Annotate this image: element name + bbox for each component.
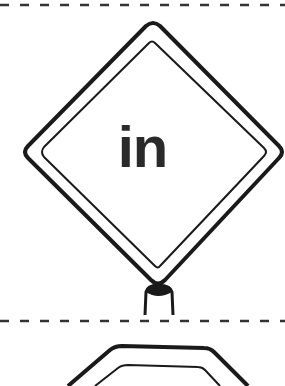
sign-label: in	[0, 118, 285, 176]
coloring-page: in	[0, 0, 285, 386]
sign-post-icon	[145, 284, 173, 315]
octagon-sign-icon	[68, 346, 248, 386]
sign-drawing	[0, 0, 285, 386]
